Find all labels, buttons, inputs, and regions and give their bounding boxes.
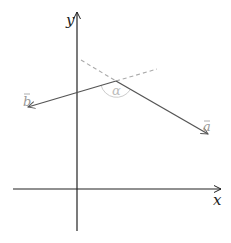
y-axis-label: y: [65, 11, 75, 29]
vector-a: [116, 81, 208, 134]
vector-b-label: b: [23, 94, 31, 109]
dashed-extension-a: [116, 69, 157, 81]
vector-b: [28, 81, 116, 107]
angle-label: α: [112, 83, 121, 98]
vector-angle-diagram: y x b a α: [0, 0, 231, 243]
dashed-extension-b: [81, 60, 116, 81]
x-axis-label: x: [213, 191, 222, 209]
